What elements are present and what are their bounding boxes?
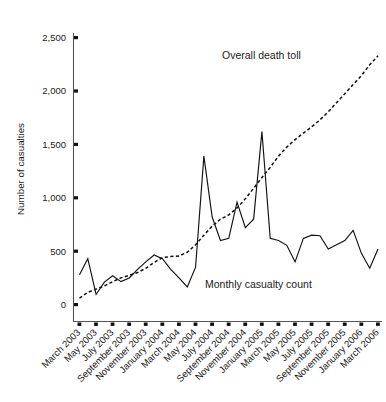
monthly-casualty-count-label: Monthly casualty count bbox=[205, 278, 312, 290]
y-axis-tick-labels: 2,500 2,000 1,500 1,000 500 0 bbox=[42, 32, 66, 310]
x-tick-mark bbox=[310, 323, 314, 326]
overall-death-toll-line bbox=[80, 56, 379, 298]
x-tick-mark bbox=[78, 323, 82, 326]
x-tick-mark bbox=[376, 323, 380, 326]
y-axis-title: Number of casualties bbox=[15, 123, 26, 215]
x-tick-mark bbox=[227, 323, 231, 326]
y-tick-label: 2,500 bbox=[42, 32, 66, 43]
x-axis-tick-labels: March 2003May 2003July 2003September 200… bbox=[39, 327, 381, 384]
monthly-casualty-count-line bbox=[80, 132, 379, 295]
x-tick-mark bbox=[177, 323, 181, 326]
x-tick-mark bbox=[293, 323, 297, 326]
y-tick-label: 1,000 bbox=[42, 192, 66, 203]
x-tick-mark bbox=[144, 323, 148, 326]
x-tick-marks bbox=[78, 323, 380, 326]
y-tick-label: 2,000 bbox=[42, 85, 66, 96]
x-tick-mark bbox=[326, 323, 330, 326]
y-tick-label: 1,500 bbox=[42, 139, 66, 150]
x-tick-mark bbox=[94, 323, 98, 326]
x-tick-mark bbox=[343, 323, 347, 326]
x-tick-mark bbox=[160, 323, 164, 326]
x-tick-mark bbox=[359, 323, 363, 326]
chart-canvas: Number of casualties 2,500 2,000 1,500 1… bbox=[0, 0, 386, 402]
x-tick-mark bbox=[210, 323, 214, 326]
casualties-chart: Number of casualties 2,500 2,000 1,500 1… bbox=[0, 0, 386, 402]
y-tick-label: 500 bbox=[50, 246, 66, 257]
y-tick-label: 0 bbox=[61, 299, 66, 310]
x-tick-mark bbox=[111, 323, 115, 326]
overall-death-toll-label: Overall death toll bbox=[222, 49, 301, 61]
x-tick-mark bbox=[127, 323, 131, 326]
x-tick-mark bbox=[260, 323, 264, 326]
x-tick-mark bbox=[194, 323, 198, 326]
y-tick-marks bbox=[74, 36, 78, 306]
x-tick-mark bbox=[243, 323, 247, 326]
x-tick-mark bbox=[277, 323, 281, 326]
